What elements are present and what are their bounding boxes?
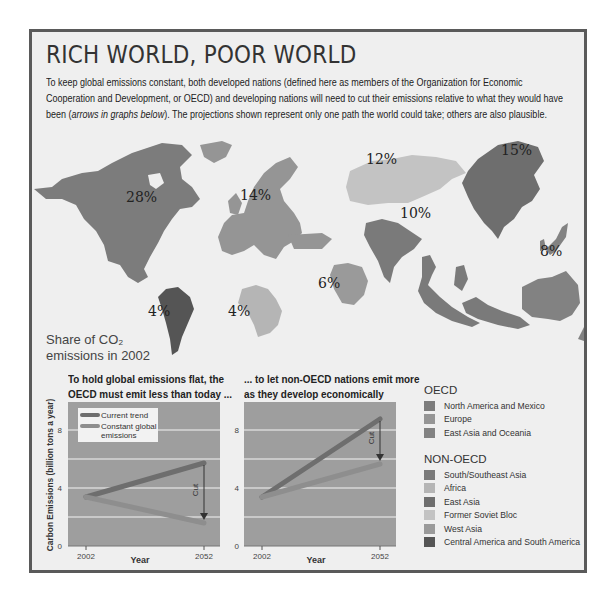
legend-constant-1: Constant global — [101, 422, 157, 431]
x-tick-2052: 2052 — [195, 552, 213, 561]
svg-text:8: 8 — [235, 426, 240, 435]
legend-label: North America and Mexico — [444, 401, 545, 411]
svg-text:2002: 2002 — [253, 552, 271, 561]
legend-item: North America and Mexico — [424, 399, 584, 412]
intro-paragraph: To keep global emissions constant, both … — [46, 74, 573, 122]
legend-item: East Asia and Oceania — [424, 426, 584, 439]
svg-text:0: 0 — [235, 542, 240, 551]
share-west-asia: 6% — [318, 275, 340, 291]
legend-item: South/Southeast Asia — [424, 468, 584, 481]
map-caption: Share of CO₂ emissions in 2002 — [46, 332, 150, 364]
legend-current-trend: Current trend — [101, 411, 148, 420]
legend-item: East Asia — [424, 495, 584, 508]
swatch-west-asia — [424, 524, 435, 534]
share-africa: 4% — [228, 303, 250, 319]
page-title: RICH WORLD, POOR WORLD — [46, 40, 357, 69]
turkey-shape — [288, 233, 332, 249]
swatch-east-asia — [424, 497, 435, 507]
swatch-former-soviet-bloc — [424, 510, 435, 520]
x-tick-2002: 2002 — [77, 552, 95, 561]
legend-item: Africa — [424, 482, 584, 495]
svg-text:4: 4 — [235, 484, 240, 493]
y-tick-8: 8 — [58, 426, 63, 435]
former-soviet-shape — [346, 155, 466, 205]
y-axis-label: Carbon Emissions (billion tons a year) — [45, 398, 55, 551]
svg-text:Year: Year — [306, 555, 326, 565]
world-map: 28% 14% 12% 15% 10% 8% 6% 4% 4% Share of… — [32, 127, 584, 367]
legend-label: Europe — [444, 414, 472, 424]
swatch-europe — [424, 414, 435, 424]
legend-label: East Asia and Oceania — [444, 428, 531, 438]
svg-text:2052: 2052 — [371, 552, 389, 561]
legend-non-oecd-heading: NON-OECD — [424, 453, 584, 465]
world-map-shapes — [32, 127, 584, 367]
legend-item: West Asia — [424, 522, 584, 535]
infographic-frame: RICH WORLD, POOR WORLD To keep global em… — [29, 29, 587, 573]
oecd-chart-plot: 0 4 8 2002 2052 Year Carbon Emissions (b… — [32, 372, 232, 572]
share-south-america: 4% — [148, 303, 170, 319]
region-legend: OECD North America and Mexico Europe Eas… — [424, 384, 584, 549]
australia-shape — [522, 271, 580, 321]
southeast-asia-shape — [418, 255, 480, 327]
legend-oecd-heading: OECD — [424, 384, 584, 396]
legend-oecd-list: North America and Mexico Europe East Asi… — [424, 399, 584, 439]
y-tick-0: 0 — [58, 542, 63, 551]
share-east-asia-oceania: 8% — [540, 243, 562, 259]
swatch-central-south-america — [424, 537, 435, 547]
intro-text-end: ). The projections shown represent only … — [164, 108, 547, 120]
legend-label: West Asia — [444, 524, 482, 534]
legend-item: Central America and South America — [424, 536, 584, 549]
intro-italic: arrows in graphs below — [72, 108, 165, 120]
swatch-north-america — [424, 401, 435, 411]
share-east-asia: 15% — [501, 142, 532, 158]
share-europe: 14% — [240, 187, 271, 203]
south-asia-shape — [364, 219, 422, 283]
swatch-east-asia-oceania — [424, 428, 435, 438]
cut-annotation: Cut — [191, 483, 200, 496]
legend-label: Central America and South America — [444, 537, 580, 547]
swatch-africa — [424, 483, 435, 493]
non-oecd-chart: ... to let non-OECD nations emit more as… — [222, 372, 422, 572]
svg-text:Cut: Cut — [367, 431, 376, 444]
philippines-shape — [454, 265, 468, 291]
legend-constant-2: emissions — [101, 431, 137, 440]
legend-label: South/Southeast Asia — [444, 470, 526, 480]
oecd-chart: To hold global emissions flat, the OECD … — [32, 372, 232, 572]
legend-label: Africa — [444, 483, 466, 493]
legend-item: Europe — [424, 413, 584, 426]
non-oecd-chart-plot: 0 4 8 2002 2052 Year Cut — [222, 372, 422, 572]
map-caption-line1: Share of CO₂ — [46, 332, 150, 348]
legend-item: Former Soviet Bloc — [424, 509, 584, 522]
y-tick-4: 4 — [58, 484, 63, 493]
share-north-america: 28% — [126, 189, 157, 205]
legend-label: East Asia — [444, 497, 480, 507]
x-axis-label: Year — [130, 555, 150, 565]
swatch-south-southeast-asia — [424, 470, 435, 480]
greenland-shape — [200, 141, 232, 163]
south-america-shape — [158, 287, 194, 355]
share-south-southeast-asia: 10% — [400, 205, 431, 221]
north-america-shape — [34, 143, 200, 283]
legend-non-oecd-list: South/Southeast Asia Africa East Asia Fo… — [424, 468, 584, 549]
map-caption-line2: emissions in 2002 — [46, 348, 150, 364]
legend-label: Former Soviet Bloc — [444, 510, 517, 520]
share-former-soviet: 12% — [366, 151, 397, 167]
new-zealand-shape — [578, 317, 584, 341]
